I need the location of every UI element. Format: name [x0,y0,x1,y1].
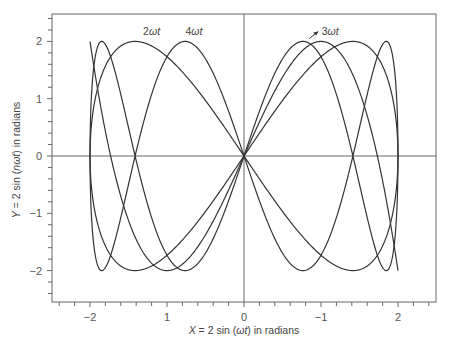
x-tick-label: 2 [395,311,401,323]
y-tick-label: 2 [36,35,42,47]
x-tick-label: 0 [241,311,247,323]
y-tick-label: 0 [36,150,42,162]
curve-label-3wt: 3ωt [322,25,340,37]
curve-label-2wt: 2ωt [143,25,161,37]
y-tick-label: −1 [29,207,42,219]
curve-labels: 2ωt3ωt4ωt [143,25,340,39]
curve-label-4wt: 4ωt [185,25,203,37]
y-tick-label: −2 [29,265,42,277]
lissajous-chart: −210−12−2−1012 2ωt3ωt4ωt X = 2 sin (ωt) … [0,0,449,351]
x-axis-title: X = 2 sin (ωt) in radians [188,324,300,336]
axis-ticks: −210−12−2−1012 [29,18,428,323]
y-tick-label: 1 [36,93,42,105]
x-tick-label: −1 [315,311,328,323]
x-tick-label: −2 [84,311,97,323]
x-tick-label: 1 [164,311,170,323]
y-axis-title: Y = 2 sin (nωt) in radians [10,102,22,218]
